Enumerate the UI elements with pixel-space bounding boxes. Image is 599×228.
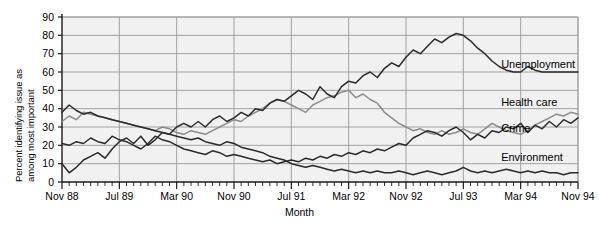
y-axis-title: Percent identifying issue as among most … (2, 6, 28, 186)
x-tick-label-nov-88: Nov 88 (45, 190, 78, 202)
series-label-crime: Crime (501, 122, 530, 134)
y-tick-label-50: 50 (32, 85, 54, 95)
x-tick-label-jul-89: Jul 89 (105, 190, 133, 202)
y-tick-label-0: 0 (32, 177, 54, 187)
y-tick-label-20: 20 (32, 140, 54, 150)
x-tick-label-mar-92: Mar 92 (332, 190, 365, 202)
x-tick-label-nov-94: Nov 94 (561, 190, 594, 202)
chart-container: Percent identifying issue as among most … (0, 0, 599, 228)
y-tick-label-90: 90 (32, 12, 54, 22)
y-tick-label-10: 10 (32, 158, 54, 168)
y-tick-label-60: 60 (32, 67, 54, 77)
x-tick-label-nov-92: Nov 92 (389, 190, 422, 202)
x-tick-label-jul-93: Jul 93 (449, 190, 477, 202)
y-tick-label-30: 30 (32, 122, 54, 132)
series-label-health-care: Health care (501, 96, 557, 108)
y-tick-label-40: 40 (32, 103, 54, 113)
x-tick-label-nov-90: Nov 90 (217, 190, 250, 202)
y-tick-label-80: 80 (32, 30, 54, 40)
x-tick-label-mar-90: Mar 90 (160, 190, 193, 202)
x-axis-title: Month (0, 206, 599, 218)
y-axis-title-line1: Percent identifying issue as (13, 69, 24, 182)
x-tick-label-mar-94: Mar 94 (504, 190, 537, 202)
x-tick-label-jul-91: Jul 91 (277, 190, 305, 202)
y-tick-label-70: 70 (32, 48, 54, 58)
series-label-environment: Environment (501, 151, 563, 163)
series-label-unemployment: Unemployment (501, 58, 575, 70)
